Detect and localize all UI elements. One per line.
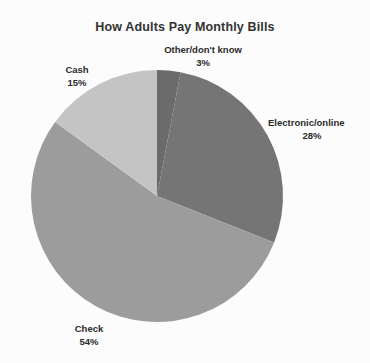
pie-label-electronic-online-value: 28%	[268, 130, 356, 143]
pie-label-electronic-online-name: Electronic/online	[268, 117, 345, 128]
pie-label-other-dont-know: Other/don't know 3%	[141, 44, 265, 69]
pie-label-other-dont-know-value: 3%	[141, 57, 265, 70]
pie-label-check-value: 54%	[60, 336, 118, 349]
pie-label-other-dont-know-name: Other/don't know	[164, 44, 242, 55]
pie-label-cash-value: 15%	[48, 77, 106, 90]
pie-label-check-name: Check	[75, 323, 104, 334]
pie-label-check: Check 54%	[60, 323, 118, 348]
pie-slices	[31, 70, 283, 322]
pie-label-cash: Cash 15%	[48, 64, 106, 89]
chart-canvas: How Adults Pay Monthly Bills Other/don't…	[0, 0, 370, 363]
pie-label-cash-name: Cash	[65, 64, 88, 75]
pie-label-electronic-online: Electronic/online 28%	[268, 117, 368, 142]
